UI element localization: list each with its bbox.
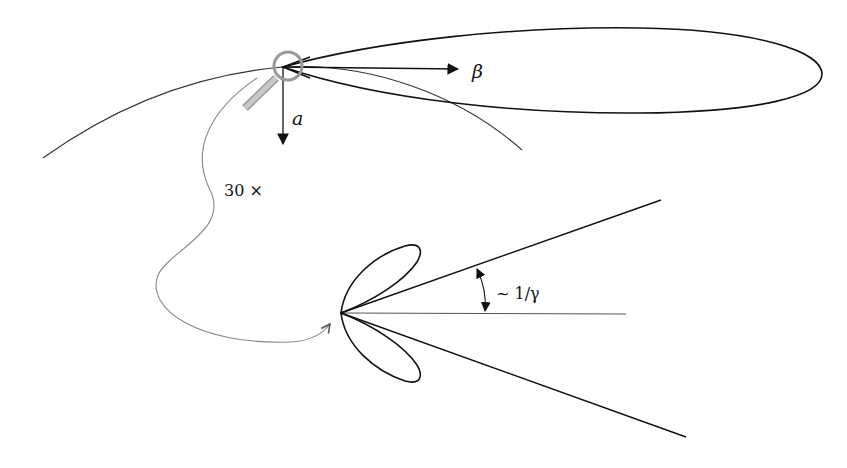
beta-label: β bbox=[471, 60, 483, 82]
angle-label: ~ 1/γ bbox=[496, 284, 540, 303]
lower-cone-ray bbox=[341, 313, 686, 437]
magnification-label: 30 × bbox=[224, 181, 263, 200]
forward-radiation-lobe bbox=[283, 28, 822, 113]
angle-arc bbox=[477, 269, 485, 311]
zoom-connector-curve bbox=[156, 78, 330, 342]
axis-line bbox=[341, 313, 626, 314]
angle-label-text: ~ 1/γ bbox=[496, 284, 540, 303]
lower-side-lobe bbox=[341, 313, 420, 382]
radiation-pattern-diagram: β a 30 × ~ 1/γ bbox=[0, 0, 847, 468]
upper-side-lobe bbox=[341, 245, 420, 313]
beta-velocity-arrow bbox=[283, 67, 458, 69]
acceleration-label: a bbox=[292, 107, 303, 129]
